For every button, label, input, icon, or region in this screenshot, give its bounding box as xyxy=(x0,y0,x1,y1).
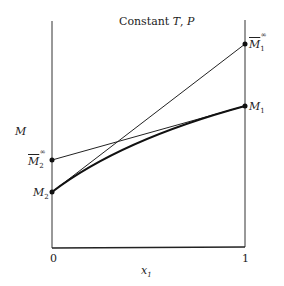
x-axis-label: x1 xyxy=(141,265,152,279)
point-m1 xyxy=(243,104,248,109)
mixture-property-curve xyxy=(52,106,245,192)
point-m2-inf xyxy=(50,158,55,163)
label-m2-inf: M2∞ xyxy=(28,155,46,170)
diagram-title: Constant T, P xyxy=(119,16,195,27)
tangent-line-m2 xyxy=(52,44,245,192)
point-m1-inf xyxy=(243,42,248,47)
x-axis xyxy=(52,247,245,248)
y-axis-label: M xyxy=(15,126,26,137)
label-m2: M2 xyxy=(33,187,49,201)
x-tick-1: 1 xyxy=(242,253,249,264)
x-tick-0: 0 xyxy=(50,253,57,264)
label-m1: M1 xyxy=(249,101,265,115)
label-m1-inf: M1∞ xyxy=(249,38,267,53)
point-m2 xyxy=(50,190,55,195)
diagram-canvas xyxy=(0,0,284,286)
